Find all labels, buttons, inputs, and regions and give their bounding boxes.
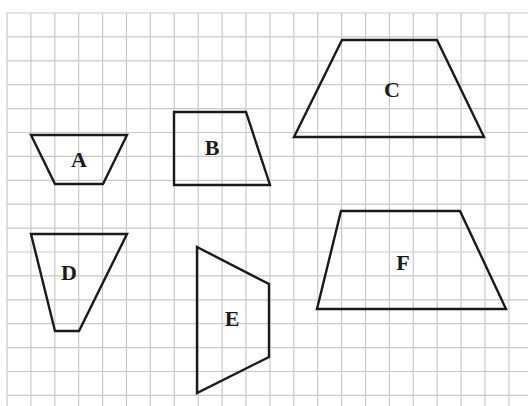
shape-label: D: [61, 260, 77, 285]
grid: [7, 13, 528, 406]
shape-label: B: [205, 135, 220, 160]
shape-f: F: [317, 211, 506, 309]
shape-label: A: [71, 147, 87, 172]
shape-label: E: [225, 306, 240, 331]
quadrilateral-outline: [317, 211, 506, 309]
grid-diagram: ABCDEF: [0, 0, 528, 406]
shape-label: C: [384, 77, 400, 102]
shape-label: F: [396, 250, 409, 275]
